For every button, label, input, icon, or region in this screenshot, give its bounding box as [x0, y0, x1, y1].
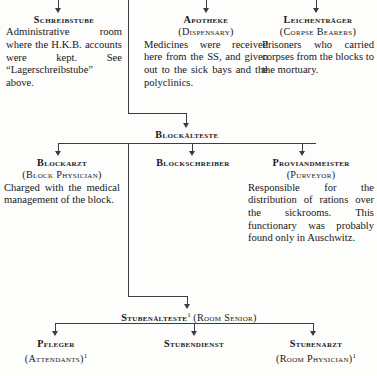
- divider-line-row3: [128, 143, 129, 297]
- node-schreibstube: Schreibstube Administrative room where t…: [6, 14, 122, 89]
- blockarzt-subheading: (Block Physician): [4, 169, 120, 181]
- stem-leichentraeger: [316, 0, 317, 9]
- node-pfleger: Pfleger (Attendants)1: [0, 338, 112, 366]
- proviandmeister-subheading: (Purveyor): [248, 169, 374, 181]
- node-blockaelteste: Blockälteste: [120, 129, 254, 141]
- arrow-to-stubenarzt: [310, 331, 316, 336]
- org-chart-diagram: Schreibstube Administrative room where t…: [0, 0, 377, 376]
- stem-schreibstube: [58, 0, 59, 9]
- apotheke-body: Medicines were received here from the SS…: [144, 39, 268, 89]
- leichentraeger-heading: Leichenträger: [262, 14, 374, 26]
- stubenarzt-heading: Stubenarzt: [256, 338, 376, 350]
- arrow-to-pfleger: [52, 331, 58, 336]
- schreibstube-heading: Schreibstube: [6, 14, 122, 26]
- node-blockschreiber: Blockschreiber: [134, 157, 252, 169]
- pfleger-subline: (Attendants)1: [0, 350, 112, 366]
- bus-row3: [58, 143, 316, 144]
- arrow-to-blockaelteste: [183, 123, 189, 128]
- stubenaelteste-heading: Stubenälteste: [121, 312, 187, 323]
- apotheke-subheading: (Dispensary): [144, 26, 268, 38]
- proviandmeister-body: Responsible for the distribution of rati…: [248, 182, 374, 245]
- connector-row3-to-stubenaelteste: [128, 296, 188, 297]
- stubenaelteste-footnote: 1: [187, 311, 191, 319]
- node-proviandmeister: Proviandmeister (Purveyor) Responsible f…: [248, 157, 374, 245]
- leichentraeger-body: Prisoners who carried corpses from the b…: [262, 39, 374, 77]
- stubenarzt-subline: (Room Physician)1: [256, 350, 376, 366]
- stem-apotheke: [206, 0, 207, 9]
- blockarzt-heading: Blockarzt: [4, 157, 120, 169]
- blockaelteste-heading: Blockälteste: [120, 129, 254, 141]
- node-apotheke: Apotheke (Dispensary) Medicines were rec…: [144, 14, 268, 89]
- stubenaelteste-translation: (Room Senior): [193, 312, 256, 323]
- node-leichentraeger: Leichenträger (Corpse Bearers) Prisoners…: [262, 14, 374, 77]
- node-stubendienst: Stubendienst: [135, 338, 253, 350]
- arrow-to-proviandmeister: [299, 151, 305, 156]
- arrow-to-stubendienst: [191, 331, 197, 336]
- node-blockarzt: Blockarzt (Block Physician) Charged with…: [4, 157, 120, 207]
- pfleger-heading: Pfleger: [0, 338, 112, 350]
- stubenarzt-footnote: 1: [352, 352, 356, 360]
- connector-row1-to-blockaelteste: [128, 113, 187, 114]
- stubenarzt-subheading: (Room Physician): [276, 354, 352, 365]
- pfleger-footnote: 1: [84, 352, 88, 360]
- schreibstube-body: Administrative room where the H.K.B. acc…: [6, 26, 122, 89]
- leichentraeger-subheading: (Corpse Bearers): [262, 26, 374, 38]
- blockarzt-body: Charged with the medical management of t…: [4, 182, 120, 207]
- pfleger-subheading: (Attendants): [25, 354, 84, 365]
- bus-row5: [55, 323, 314, 324]
- proviandmeister-heading: Proviandmeister: [248, 157, 374, 169]
- stubendienst-heading: Stubendienst: [135, 338, 253, 350]
- arrow-to-blockarzt: [55, 151, 61, 156]
- divider-line-row1: [128, 0, 129, 114]
- blockschreiber-heading: Blockschreiber: [134, 157, 252, 169]
- apotheke-heading: Apotheke: [144, 14, 268, 26]
- arrow-to-blockschreiber: [189, 151, 195, 156]
- node-stubenarzt: Stubenarzt (Room Physician)1: [256, 338, 376, 366]
